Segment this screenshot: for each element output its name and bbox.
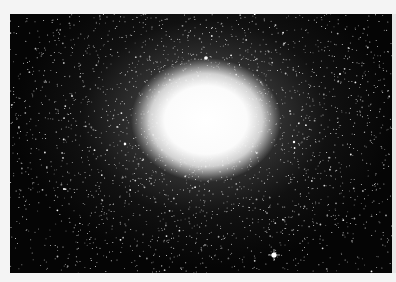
page-edge	[392, 14, 396, 273]
star-cluster-photo	[10, 14, 392, 273]
bright-stars	[10, 14, 392, 273]
